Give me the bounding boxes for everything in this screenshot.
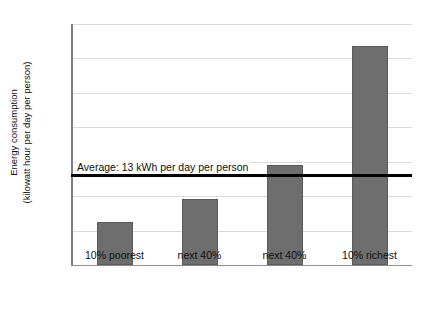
- average-annotation-label: Average: 13 kWh per day per person: [76, 161, 250, 174]
- bar-chart: Energy consumption (kilowatt hour per da…: [0, 0, 428, 309]
- y-axis-line: [71, 24, 73, 265]
- x-axis-category-label: 10% poorest: [72, 249, 158, 261]
- average-reference-line: [71, 174, 412, 176]
- y-axis-title: Energy consumption (kilowatt hour per da…: [0, 0, 40, 265]
- gridline: [72, 24, 412, 25]
- y-axis-title-line-2: (kilowatt hour per day per person): [20, 61, 33, 203]
- x-axis-category-label: next 40%: [242, 249, 328, 261]
- y-axis-title-line-1: Energy consumption: [8, 61, 21, 203]
- x-axis-line: [71, 265, 412, 266]
- x-axis-category-label: 10% richest: [327, 249, 413, 261]
- plot-area: 05101520253035 Average: 13 kWh per day p…: [72, 24, 412, 265]
- bar: [352, 46, 388, 265]
- x-axis-category-label: next 40%: [157, 249, 243, 261]
